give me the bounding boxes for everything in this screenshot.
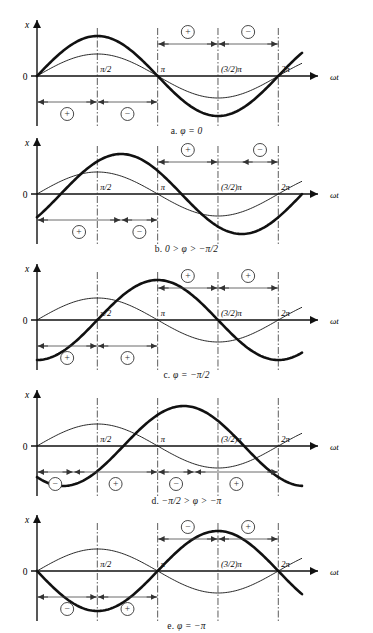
panel-c: xωt0π/2π(3/2)π2π++++c. φ = −π/2	[0, 252, 373, 374]
tick-label-3: 2π	[281, 559, 290, 569]
origin-label: 0	[23, 316, 28, 326]
panel-e: xωt0π/2π(3/2)π2π−+−+e. φ = −π	[0, 503, 373, 625]
x-axis-label: ωt	[330, 442, 339, 452]
sign-label: +	[185, 145, 190, 155]
sign-label: +	[64, 109, 69, 119]
y-axis-label: x	[24, 138, 30, 148]
y-axis-label: x	[24, 20, 30, 30]
tick-label-0: π/2	[100, 182, 112, 192]
tick-label-3: 2π	[281, 434, 290, 444]
tick-label-3: 2π	[281, 182, 290, 192]
tick-label-0: π/2	[100, 559, 112, 569]
tick-label-1: π	[161, 434, 166, 444]
origin-label: 0	[23, 72, 28, 82]
sign-label: +	[185, 271, 190, 281]
sign-label: +	[245, 271, 250, 281]
x-axis-label: ωt	[330, 72, 339, 82]
plot-a: xωt0π/2π(3/2)π2π+−+−	[0, 8, 373, 130]
panel-a: xωt0π/2π(3/2)π2π+−+−a. φ = 0	[0, 8, 373, 130]
x-axis-label: ωt	[330, 190, 339, 200]
sign-label: +	[125, 353, 130, 363]
sign-label: −	[173, 479, 178, 489]
y-axis-label: x	[24, 264, 30, 274]
origin-label: 0	[23, 190, 28, 200]
tick-label-2: (3/2)π	[221, 64, 243, 74]
plot-c: xωt0π/2π(3/2)π2π++++	[0, 252, 373, 374]
figure-sheet: xωt0π/2π(3/2)π2π+−+−a. φ = 0xωt0π/2π(3/2…	[0, 0, 373, 633]
plot-e: xωt0π/2π(3/2)π2π−+−+	[0, 503, 373, 625]
tick-label-2: (3/2)π	[221, 182, 243, 192]
sign-label: −	[245, 27, 250, 37]
sign-label: +	[76, 227, 81, 237]
panel-condition-e: φ = −π	[177, 621, 206, 631]
tick-label-1: π	[161, 64, 166, 74]
sign-label: −	[64, 604, 69, 614]
panel-caption-e: e. φ = −π	[0, 621, 373, 631]
tick-label-1: π	[161, 308, 166, 318]
panel-d: xωt0π/2π(3/2)π2π−+−+d. −π/2 > φ > −π	[0, 378, 373, 500]
sign-label: −	[137, 227, 142, 237]
sign-label: +	[234, 479, 239, 489]
x-axis-label: ωt	[330, 567, 339, 577]
tick-label-3: 2π	[281, 308, 290, 318]
panel-letter-e: e.	[167, 621, 177, 631]
sign-label: −	[53, 479, 58, 489]
tick-label-2: (3/2)π	[221, 559, 243, 569]
panel-b: xωt0π/2π(3/2)π2π+−+−b. 0 > φ > −π/2	[0, 126, 373, 248]
origin-label: 0	[23, 567, 28, 577]
sign-label: +	[64, 353, 69, 363]
tick-label-1: π	[161, 182, 166, 192]
tick-label-2: (3/2)π	[221, 308, 243, 318]
y-axis-label: x	[24, 390, 30, 400]
sign-label: −	[125, 109, 130, 119]
sign-label: +	[245, 522, 250, 532]
plot-b: xωt0π/2π(3/2)π2π+−+−	[0, 126, 373, 248]
sign-label: −	[185, 522, 190, 532]
sign-label: +	[125, 604, 130, 614]
sign-label: −	[257, 145, 262, 155]
plot-d: xωt0π/2π(3/2)π2π−+−+	[0, 378, 373, 500]
x-axis-label: ωt	[330, 316, 339, 326]
tick-label-0: π/2	[100, 64, 112, 74]
sign-label: +	[185, 27, 190, 37]
origin-label: 0	[23, 442, 28, 452]
y-axis-label: x	[24, 515, 30, 525]
sign-label: +	[113, 479, 118, 489]
tick-label-0: π/2	[100, 434, 112, 444]
